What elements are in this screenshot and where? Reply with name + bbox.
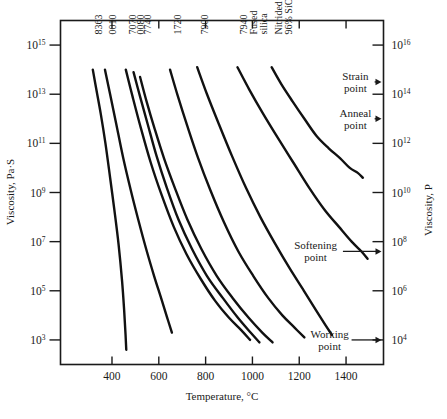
annotation-line: point: [344, 119, 367, 131]
curve-label-line: 1720: [172, 15, 183, 35]
x-tick-label: 1200: [288, 370, 311, 382]
x-tick-label: 1400: [335, 370, 358, 382]
curve-label-line: 8363: [93, 15, 104, 35]
viscosity-temperature-chart: 83630010707000807740172079007940Fusedsil…: [0, 0, 447, 419]
annotation-line: point: [344, 82, 367, 94]
curve-label-1720: 1720: [172, 15, 183, 35]
curve-label-8363: 8363: [93, 15, 104, 35]
annotation-line: point: [318, 340, 341, 352]
chart-background: [0, 0, 447, 419]
curve-label-line: 7740: [142, 15, 153, 35]
annotation-line: Strain: [342, 70, 369, 82]
curve-label-7740: 7740: [142, 15, 153, 35]
y-axis-right-title: Viscosity, P: [422, 184, 434, 236]
x-tick-label: 800: [197, 370, 215, 382]
curve-label-nitrided-96-sio2: Nitrided96% SiO2: [273, 0, 297, 35]
curve-label-7900: 7900: [199, 15, 210, 35]
x-axis-title: Temperature, °C: [186, 390, 259, 402]
x-tick-label: 1000: [241, 370, 264, 382]
y-axis-left-title: Viscosity, Pa·S: [4, 159, 16, 225]
curve-label-line: 0010: [107, 15, 118, 35]
curve-label-line: 7900: [199, 15, 210, 35]
chart-canvas: 83630010707000807740172079007940Fusedsil…: [0, 0, 447, 419]
curve-label-line: silica: [258, 13, 269, 35]
annotation-line: Working: [311, 328, 350, 340]
x-tick-label: 400: [103, 370, 121, 382]
x-tick-label: 600: [150, 370, 168, 382]
curve-label-0010: 0010: [107, 15, 118, 35]
annotation-line: Anneal: [340, 107, 372, 119]
annotation-line: point: [304, 251, 327, 263]
annotation-line: Softening: [294, 239, 337, 251]
